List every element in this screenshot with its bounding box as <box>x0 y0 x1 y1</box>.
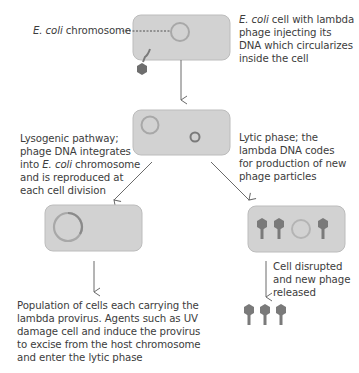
phage-icon <box>137 63 147 75</box>
cell-infection <box>122 15 230 75</box>
released-phages <box>244 304 286 325</box>
cell-lytic <box>248 206 345 252</box>
lysogenic-caption: Lysogenic pathway; phage DNA integrates … <box>20 132 140 197</box>
provirus-caption: Population of cells each carrying the la… <box>17 299 201 364</box>
lytic-caption: Lytic phase; the lambda DNA codes for pr… <box>239 131 346 183</box>
release-caption: Cell disrupted and new phage released <box>273 260 350 299</box>
cell-circularized <box>133 110 230 155</box>
infection-caption: E. coli cell with lambda phage injecting… <box>239 13 354 65</box>
cell-lysogen <box>45 205 142 251</box>
chromosome-label: E. coli chromosome <box>33 24 131 37</box>
